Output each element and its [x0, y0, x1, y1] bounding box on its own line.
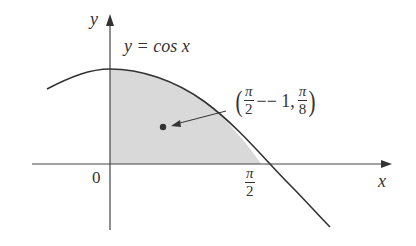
curve-label: y = cos x [124, 37, 190, 55]
point-x-num: π [244, 84, 254, 101]
x-tick-pi-over-2: π 2 [245, 166, 255, 199]
plot-canvas [0, 0, 416, 246]
y-axis-arrow-icon [106, 14, 114, 26]
paren-open: ( [236, 86, 243, 116]
curve-label-text: y = cos x [124, 36, 190, 56]
point-y-den: 8 [299, 101, 307, 117]
origin-label: 0 [92, 169, 101, 186]
paren-close: ) [309, 86, 316, 116]
x-axis-arrow-icon [381, 160, 392, 168]
x-tick-num: π [245, 166, 255, 183]
centroid-point [160, 124, 166, 130]
point-x-den: 2 [245, 101, 253, 117]
y-axis-label: y [90, 10, 98, 28]
centroid-label: ( π 2 −− 1, π 8 ) [234, 84, 317, 117]
x-axis-label: x [378, 172, 386, 190]
x-tick-den: 2 [246, 183, 254, 199]
point-y-num: π [298, 84, 308, 101]
point-x-minus: −− 1, [257, 92, 295, 110]
